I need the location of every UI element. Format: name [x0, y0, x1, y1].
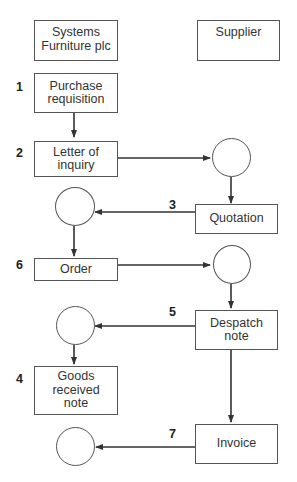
step-number-2: 2 [16, 146, 23, 160]
box-despatch-note: Despatch note [195, 310, 278, 350]
box-order: Order [34, 258, 118, 281]
circle-sfp-quotation [55, 187, 95, 226]
step-number-3: 3 [169, 198, 176, 212]
circle-supplier-order [213, 245, 251, 284]
header-supplier: Supplier [197, 20, 280, 61]
circle-sfp-invoice [56, 427, 95, 466]
box-quotation: Quotation [195, 204, 278, 234]
step-number-1: 1 [16, 80, 23, 94]
circle-supplier-inquiry [212, 138, 251, 177]
box-purchase-requisition: Purchase requisition [34, 73, 118, 113]
step-number-4: 4 [16, 372, 23, 386]
circle-sfp-despatch [56, 306, 95, 345]
box-goods-received-note: Goods received note [34, 366, 118, 415]
step-number-6: 6 [16, 258, 23, 272]
box-letter-of-inquiry: Letter of inquiry [34, 141, 118, 177]
box-invoice: Invoice [195, 424, 278, 464]
step-number-7: 7 [169, 427, 176, 441]
header-systems-furniture: Systems Furniture plc [34, 20, 118, 61]
step-number-5: 5 [169, 305, 176, 319]
